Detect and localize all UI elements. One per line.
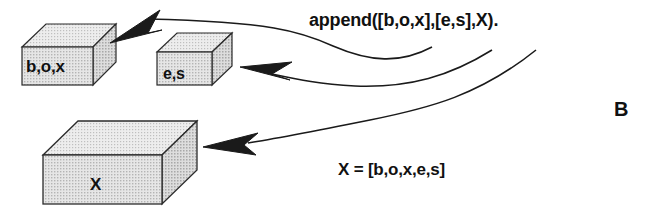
figure-panel: b,o,x e,s X append([b,o,x],[e,s],X). X =… [0,0,659,222]
arrow-curve [272,50,492,86]
box-label-box: b,o,x [26,57,65,77]
arrow-to-es [240,50,492,86]
panel-letter: B [614,98,628,121]
box-label-es: e,s [163,65,185,83]
arrowhead [110,10,162,43]
arrow-curve [248,50,536,143]
box-front-face [43,155,162,204]
result-equation-text: X = [b,o,x,e,s] [338,160,445,180]
box-list-x [43,121,197,204]
append-call-text: append([b,o,x],[e,s],X). [309,10,498,31]
arrowhead [203,133,258,155]
box-label-x: X [90,175,101,195]
